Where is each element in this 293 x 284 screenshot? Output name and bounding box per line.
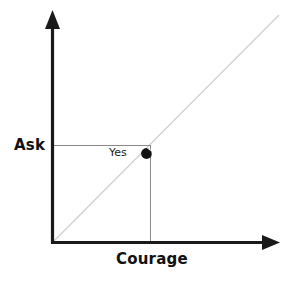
yes-point-label: Yes: [109, 147, 127, 158]
courage-ask-diagram: Ask Courage Yes: [0, 0, 293, 284]
arrow-up-icon: [45, 10, 60, 29]
identity-diagonal-line: [52, 15, 279, 243]
x-axis-label: Courage: [116, 252, 188, 267]
yes-point-marker: [141, 148, 152, 159]
arrow-right-icon: [262, 235, 280, 250]
y-axis-label: Ask: [14, 138, 45, 153]
